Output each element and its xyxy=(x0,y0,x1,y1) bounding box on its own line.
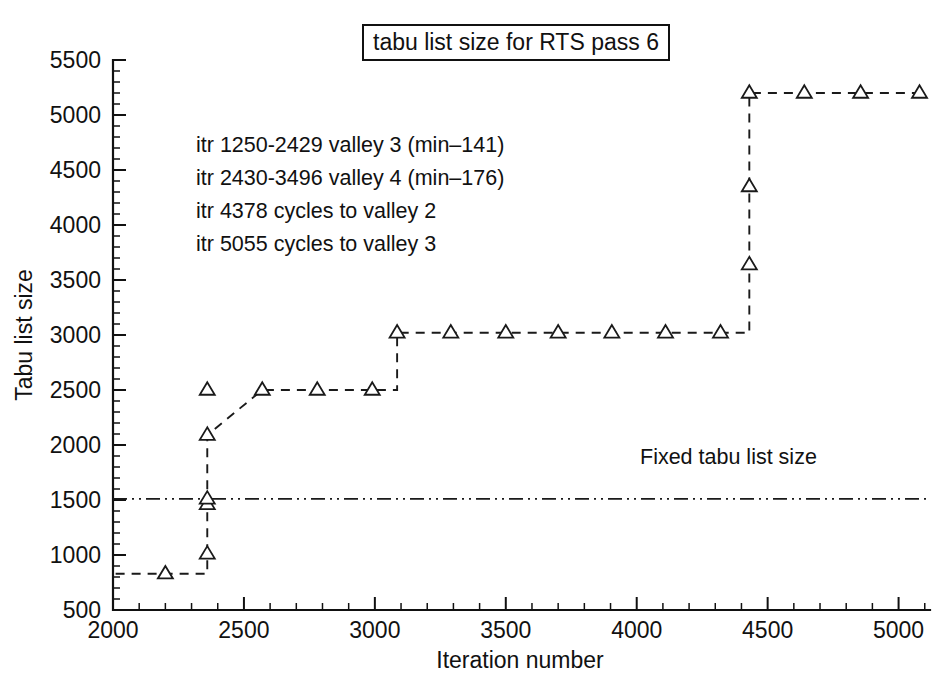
series-data-marker xyxy=(443,325,458,338)
x-axis-ticks xyxy=(113,597,925,610)
y-tick-label: 2000 xyxy=(50,432,101,458)
series-data-marker xyxy=(390,325,405,338)
y-tick-label: 3500 xyxy=(50,267,101,293)
y-tick-label: 5000 xyxy=(50,102,101,128)
y-tick-label: 4000 xyxy=(50,212,101,238)
series-data-marker xyxy=(742,257,757,270)
series-data-marker xyxy=(797,85,812,98)
series-data-marker xyxy=(604,325,619,338)
fixed-tabu-size-label: Fixed tabu list size xyxy=(640,445,817,469)
chart-title: tabu list size for RTS pass 6 xyxy=(373,29,659,55)
series-data-marker xyxy=(498,325,513,338)
x-tick-label: 2000 xyxy=(87,617,138,643)
y-tick-label: 2500 xyxy=(50,377,101,403)
y-tick-label: 1000 xyxy=(50,542,101,568)
y-axis-tick-labels: 5001000150020002500300035004000450050005… xyxy=(50,47,101,623)
annotation-line-2: itr 2430-3496 valley 4 (min–176) xyxy=(196,166,504,190)
series-data-marker xyxy=(255,382,270,395)
chart-plot-area: 5001000150020002500300035004000450050005… xyxy=(0,0,937,686)
series-data-marker xyxy=(551,325,566,338)
series-data-marker xyxy=(200,491,215,504)
series-data-marker xyxy=(200,427,215,440)
series-data-marker xyxy=(158,566,173,579)
chart-title-box: tabu list size for RTS pass 6 xyxy=(362,24,670,61)
annotation-line-1: itr 1250-2429 valley 3 (min–141) xyxy=(196,133,504,157)
series-data-marker xyxy=(310,382,325,395)
series-data-marker xyxy=(853,85,868,98)
annotation-line-4: itr 5055 cycles to valley 3 xyxy=(196,232,436,256)
tabu-size-series xyxy=(116,85,927,578)
series-data-marker xyxy=(912,85,927,98)
series-data-marker xyxy=(200,546,215,559)
y-tick-label: 1500 xyxy=(50,487,101,513)
series-data-marker xyxy=(200,382,215,395)
y-tick-label: 4500 xyxy=(50,157,101,183)
x-axis-title: Iteration number xyxy=(436,647,604,673)
x-tick-label: 3500 xyxy=(480,617,531,643)
x-tick-label: 2500 xyxy=(218,617,269,643)
series-data-marker xyxy=(365,382,380,395)
series-data-marker xyxy=(658,325,673,338)
y-axis-ticks xyxy=(113,60,126,610)
x-tick-label: 5000 xyxy=(873,617,924,643)
y-tick-label: 3000 xyxy=(50,322,101,348)
series-data-marker xyxy=(742,85,757,98)
x-tick-label: 3000 xyxy=(349,617,400,643)
x-tick-label: 4500 xyxy=(742,617,793,643)
chart-figure: 5001000150020002500300035004000450050005… xyxy=(0,0,937,686)
series-data-marker xyxy=(713,325,728,338)
x-axis-tick-labels: 2000250030003500400045005000 xyxy=(87,617,924,643)
y-axis-title: Tabu list size xyxy=(11,269,37,401)
series-data-marker xyxy=(742,179,757,192)
x-tick-label: 4000 xyxy=(611,617,662,643)
series-marker-group xyxy=(158,85,927,578)
y-tick-label: 5500 xyxy=(50,47,101,73)
annotation-text-group: itr 1250-2429 valley 3 (min–141) itr 243… xyxy=(196,133,817,469)
annotation-line-3: itr 4378 cycles to valley 2 xyxy=(196,199,436,223)
